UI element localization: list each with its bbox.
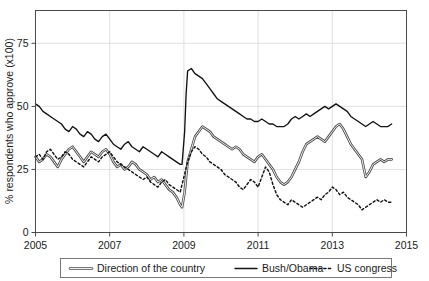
x-tick-label: 2009 xyxy=(172,239,196,251)
chart-figure: 200520072009201120132015 0255075 % respo… xyxy=(0,0,429,281)
y-tick-label: 75 xyxy=(17,37,29,49)
legend-label: Direction of the country xyxy=(97,262,206,274)
approval-line-chart: 200520072009201120132015 0255075 % respo… xyxy=(0,0,429,281)
y-tick-label: 25 xyxy=(17,163,29,175)
x-tick-label: 2005 xyxy=(24,239,48,251)
chart-legend: Direction of the countryBush/ObamaUS con… xyxy=(61,259,398,278)
x-tick-label: 2007 xyxy=(98,239,122,251)
y-tick-label: 50 xyxy=(17,100,29,112)
y-tick-label: 0 xyxy=(23,226,29,238)
legend-label: US congress xyxy=(337,262,397,274)
x-tick-label: 2013 xyxy=(321,239,345,251)
x-tick-label: 2011 xyxy=(247,239,270,251)
chart-background xyxy=(0,0,429,281)
x-tick-label: 2015 xyxy=(395,239,419,251)
y-axis-title: % respondents who approve (x100) xyxy=(3,38,15,204)
